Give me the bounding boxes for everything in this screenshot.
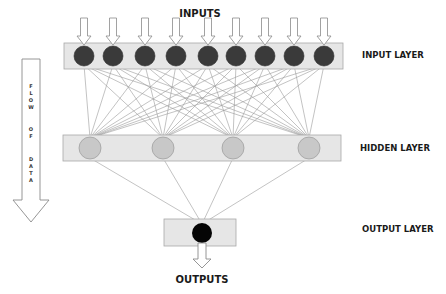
flow-letter: D <box>29 156 33 162</box>
flow-letter: F <box>29 83 32 89</box>
hidden-node <box>298 137 320 159</box>
edge <box>202 158 309 224</box>
edge <box>265 65 309 138</box>
flow-letter: A <box>29 177 33 183</box>
hidden-layer-label: HIDDEN LAYER <box>360 143 430 153</box>
edge <box>309 65 324 138</box>
input-arrow <box>317 18 331 45</box>
outputs-label: OUTPUTS <box>176 274 229 285</box>
input-arrow <box>287 18 301 45</box>
flow-letter: T <box>29 170 33 176</box>
input-arrow <box>169 18 183 45</box>
neural-network-diagram: FLOWOFDATA INPUTS OUTPUTS INPUT LAYER HI… <box>0 0 446 294</box>
input-node <box>255 46 275 66</box>
output-arrow <box>193 243 211 268</box>
edge <box>176 65 233 138</box>
edge <box>233 65 236 138</box>
edge <box>84 65 163 138</box>
input-arrow <box>258 18 272 45</box>
input-node <box>74 46 94 66</box>
hidden-node <box>152 137 174 159</box>
input-layer-label: INPUT LAYER <box>362 50 424 60</box>
flow-letter: W <box>28 104 34 110</box>
input-node <box>103 46 123 66</box>
edge <box>90 65 208 138</box>
edge <box>294 65 309 138</box>
flow-letter: O <box>29 97 33 103</box>
hidden-node <box>222 137 244 159</box>
flow-letter: A <box>29 163 33 169</box>
input-arrow <box>138 18 152 45</box>
edge <box>90 158 202 224</box>
flow-of-data-arrow: FLOWOFDATA <box>13 59 49 222</box>
flow-letter: O <box>29 126 33 132</box>
input-node <box>314 46 334 66</box>
inputs-label: INPUTS <box>179 8 221 19</box>
edge <box>90 65 265 138</box>
edge <box>145 65 163 138</box>
output-node <box>192 223 212 243</box>
edge <box>84 65 90 138</box>
hidden-node <box>79 137 101 159</box>
input-arrows <box>77 18 331 45</box>
input-node <box>284 46 304 66</box>
flow-letter: F <box>29 133 32 139</box>
edge <box>208 65 309 138</box>
input-node <box>135 46 155 66</box>
input-arrow <box>77 18 91 45</box>
edge <box>163 158 202 224</box>
input-node <box>226 46 246 66</box>
input-node <box>198 46 218 66</box>
edge <box>113 65 233 138</box>
input-arrow <box>229 18 243 45</box>
input-node <box>166 46 186 66</box>
input-arrow <box>201 18 215 45</box>
output-layer-label: OUTPUT LAYER <box>362 224 434 234</box>
edge <box>163 65 324 138</box>
input-arrow <box>106 18 120 45</box>
edge <box>233 65 265 138</box>
edge <box>90 65 113 138</box>
